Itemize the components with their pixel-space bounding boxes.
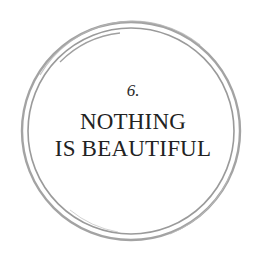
quote-title-line-1: NOTHING (0, 110, 266, 134)
quote-title-line-2: IS BEAUTIFUL (0, 137, 266, 161)
quote-number: 6. (0, 81, 266, 101)
quote-badge: 6. NOTHING IS BEAUTIFUL (0, 0, 266, 266)
